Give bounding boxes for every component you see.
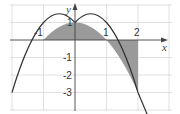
y-axis-arrow-icon [73,3,78,10]
x-axis-label: x [161,41,167,53]
axes [10,6,165,111]
y-axis-label: y [65,3,71,15]
grid [10,4,172,111]
y-tick-neg1: -1 [63,52,72,63]
function-graph: -1 1 2 1 -1 -2 -3 x y [0,0,180,114]
y-tick-neg2: -2 [63,70,72,81]
x-tick-2: 2 [134,27,140,38]
x-tick-1: 1 [103,27,109,38]
y-tick-neg3: -3 [63,87,72,98]
y-tick-1: 1 [67,17,73,28]
x-tick-neg1: -1 [34,27,43,38]
